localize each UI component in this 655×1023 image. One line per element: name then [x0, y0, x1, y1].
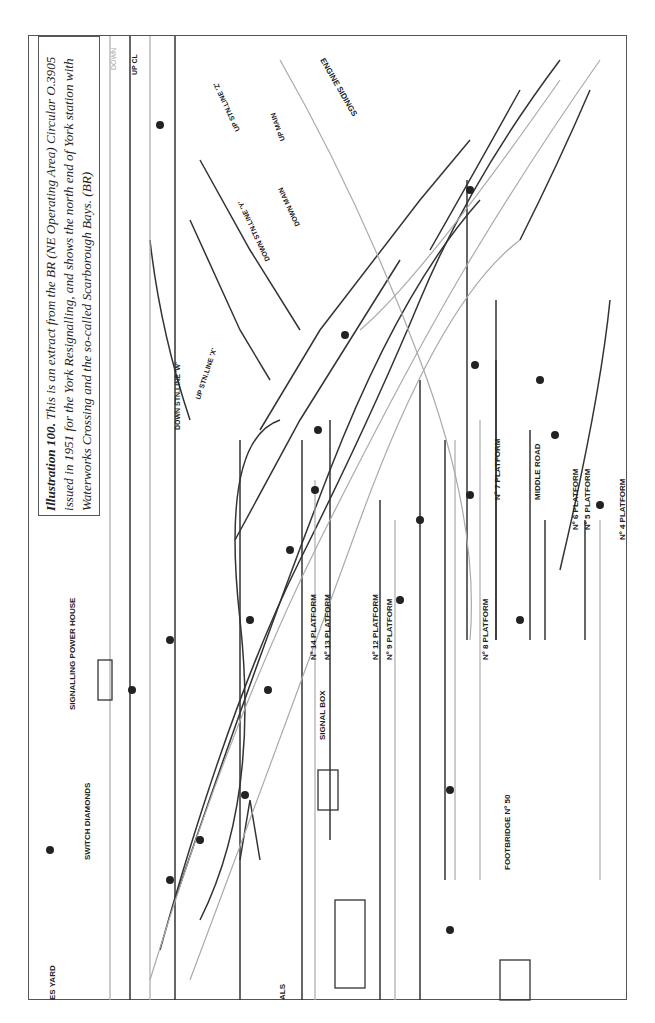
running-lines: [130, 36, 610, 1000]
platform-12-label: Nº 12 PLATFORM: [371, 594, 380, 660]
engine-sidings-label: ENGINE SIDINGS: [318, 57, 359, 119]
down-main-label: DOWN MAIN: [277, 187, 301, 228]
down-stn-line-w-label: DOWN STN.LINE 'W': [174, 362, 181, 430]
footbridge-label: FOOTBRIDGE Nº 50: [503, 794, 512, 870]
signal-box-label: SIGNAL BOX: [318, 690, 327, 740]
diagram-labels: SIGNALLING POWER HOUSE SWITCH DIAMONDS S…: [48, 48, 627, 1000]
signal-box-outline: [318, 770, 338, 810]
platform-7-label: Nº 7 PLATFORM: [493, 438, 502, 500]
switch-diamonds-label: SWITCH DIAMONDS: [83, 782, 92, 860]
down-stn-line-y-label: DOWN STN.LINE 'Y': [237, 200, 271, 263]
yard-label: ES YARD: [48, 965, 57, 1000]
platform-4-label: Nº 4 PLATFORM: [618, 478, 627, 540]
caption-title: Illustration 100.: [43, 423, 58, 511]
platform-end-outline: [500, 960, 530, 1000]
up-stn-line-z-label: UP STN.LINE 'Z': [212, 81, 241, 132]
platform-14-label: Nº 14 PLATFORM: [309, 594, 318, 660]
signalling-power-house-label: SIGNALLING POWER HOUSE: [68, 597, 77, 710]
track-circuit-lines: [110, 36, 600, 1000]
platform-8-label: Nº 8 PLATFORM: [481, 598, 490, 660]
middle-road-label: MIDDLE ROAD: [533, 443, 542, 500]
down-label: DOWN: [110, 48, 117, 70]
caption-text-block: Illustration 100. This is an extract fro…: [42, 41, 96, 511]
up-stn-line-x-label: UP STN.LINE 'X': [194, 347, 217, 400]
up-main-label: UP MAIN: [269, 112, 286, 142]
platform-5-label: Nº 5 PLATFORM: [583, 468, 592, 530]
platform-6-label: Nº 6 PLATFORM: [571, 468, 580, 530]
up-label: UP CL: [131, 53, 138, 75]
platform-9-label: Nº 9 PLATFORM: [385, 598, 394, 660]
platform-end-outline: [335, 900, 365, 988]
als-label: ALS: [278, 983, 287, 1000]
caption-box: Illustration 100. This is an extract fro…: [38, 36, 100, 516]
platform-13-label: Nº 13 PLATFORM: [323, 594, 332, 660]
